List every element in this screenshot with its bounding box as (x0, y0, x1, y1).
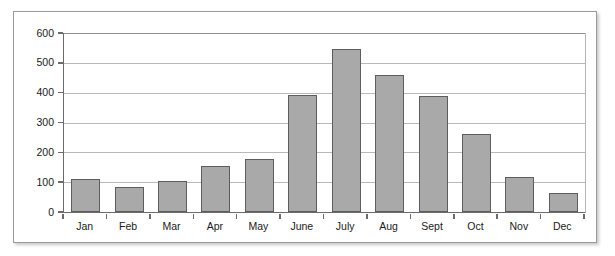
x-axis-tick-label: Aug (367, 221, 410, 232)
y-axis-tick-label: 100 (14, 177, 54, 188)
chart-figure-frame: 0100200300400500600JanFebMarAprMayJuneJu… (13, 11, 597, 243)
x-axis-tick-label: Jan (63, 221, 106, 232)
y-axis-tick-label: 300 (14, 117, 54, 128)
bar (332, 49, 361, 212)
x-axis-tick-label: Feb (106, 221, 149, 232)
bar (505, 177, 534, 212)
gridline (64, 152, 585, 153)
x-axis-tick-mark (193, 214, 195, 219)
y-axis-tick-label: 0 (14, 207, 54, 218)
y-axis-tick-mark (58, 181, 63, 183)
bar (115, 187, 144, 212)
y-axis-tick-label: 200 (14, 147, 54, 158)
x-axis-tick-label: Sept (410, 221, 453, 232)
bar (549, 193, 578, 212)
x-axis-tick-mark (62, 214, 64, 219)
x-axis-tick-mark (540, 214, 542, 219)
x-axis-tick-label: Mar (150, 221, 193, 232)
x-axis-tick-mark (323, 214, 325, 219)
bar (419, 96, 448, 212)
bar (71, 179, 100, 212)
y-axis-tick-label: 400 (14, 87, 54, 98)
y-axis-tick-mark (58, 92, 63, 94)
x-axis-tick-label: Dec (541, 221, 584, 232)
plot-area (63, 33, 586, 213)
y-axis-tick-mark (58, 62, 63, 64)
gridline (64, 63, 585, 64)
y-axis-tick-mark (58, 32, 63, 34)
x-axis-tick-mark (106, 214, 108, 219)
x-axis-tick-mark (236, 214, 238, 219)
y-axis-tick-mark (58, 152, 63, 154)
y-axis-tick-mark (58, 122, 63, 124)
x-axis-tick-mark (410, 214, 412, 219)
x-axis-tick-label: Apr (193, 221, 236, 232)
x-axis-tick-label: May (237, 221, 280, 232)
bar (201, 166, 230, 212)
gridline (64, 123, 585, 124)
x-axis-tick-mark (149, 214, 151, 219)
bar (158, 181, 187, 212)
bar (462, 134, 491, 212)
bar (288, 95, 317, 212)
gridline (64, 33, 585, 34)
gridline (64, 93, 585, 94)
x-axis-tick-mark (453, 214, 455, 219)
chart-plot-wrapper: 0100200300400500600JanFebMarAprMayJuneJu… (14, 12, 598, 244)
x-axis-tick-mark (279, 214, 281, 219)
y-axis-tick-label: 500 (14, 57, 54, 68)
x-axis-tick-label: June (280, 221, 323, 232)
x-axis-tick-mark (496, 214, 498, 219)
x-axis-tick-mark (366, 214, 368, 219)
x-axis-tick-label: Oct (454, 221, 497, 232)
x-axis-tick-label: July (324, 221, 367, 232)
y-axis-tick-label: 600 (14, 28, 54, 39)
bar (245, 159, 274, 212)
bar (375, 75, 404, 212)
x-axis-tick-label: Nov (497, 221, 540, 232)
x-axis-tick-mark (583, 214, 585, 219)
